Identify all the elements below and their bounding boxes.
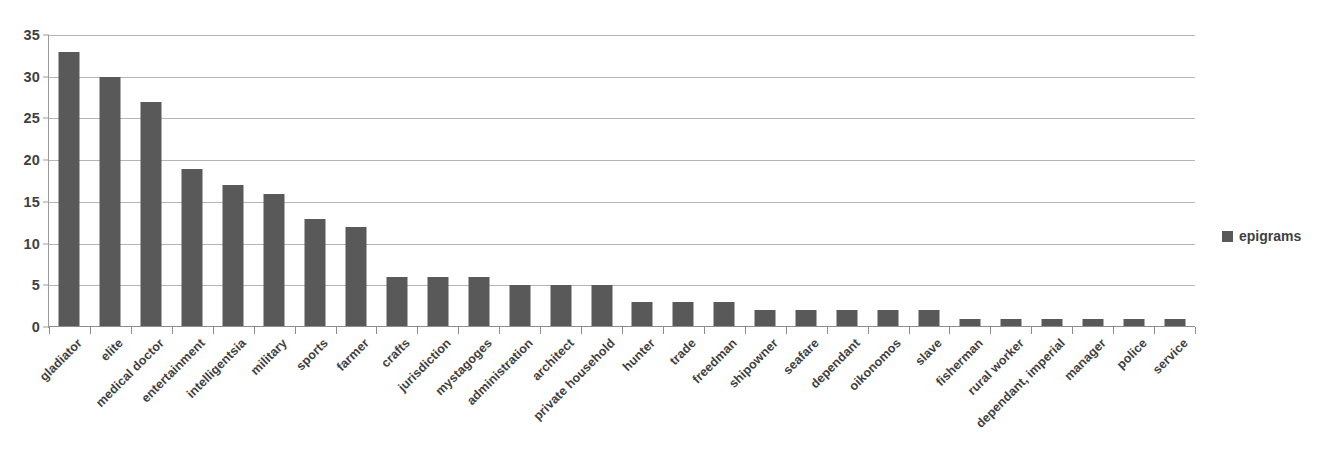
bar-slot <box>172 35 213 327</box>
bar-series-epigrams <box>49 35 1195 327</box>
y-tick-label: 20 <box>2 153 40 168</box>
bar-slot <box>499 35 540 327</box>
x-axis-label: private household <box>530 336 617 423</box>
x-axis-tick <box>336 327 337 334</box>
x-axis-tick <box>417 327 418 334</box>
legend-swatch-epigrams <box>1222 231 1233 242</box>
x-axis-tick <box>949 327 950 334</box>
bar-slot <box>49 35 90 327</box>
bar-slot <box>458 35 499 327</box>
x-axis-labels: gladiatorelitemedical doctorentertainmen… <box>49 336 1195 452</box>
bar[interactable] <box>673 302 694 327</box>
x-axis-tick <box>90 327 91 334</box>
bar[interactable] <box>509 285 530 327</box>
bar-slot <box>990 35 1031 327</box>
x-axis-label: slave <box>912 336 944 368</box>
bar-chart: 05101520253035 gladiatorelitemedical doc… <box>0 0 1322 452</box>
x-axis-tick <box>458 327 459 334</box>
bar[interactable] <box>427 277 448 327</box>
x-axis-label: gladiator <box>37 336 85 384</box>
x-axis-ticks <box>49 327 1195 335</box>
bar[interactable] <box>345 227 366 327</box>
x-axis-tick <box>1113 327 1114 334</box>
x-axis-tick <box>827 327 828 334</box>
x-axis-tick <box>663 327 664 334</box>
bar[interactable] <box>182 169 203 328</box>
bar-slot <box>376 35 417 327</box>
x-axis-label: hunter <box>621 336 659 374</box>
bar-slot <box>868 35 909 327</box>
legend-label-epigrams: epigrams <box>1239 228 1301 244</box>
x-axis-tick <box>295 327 296 334</box>
chart-legend: epigrams <box>1222 228 1301 244</box>
bar-slot <box>540 35 581 327</box>
x-axis-tick <box>131 327 132 334</box>
bar[interactable] <box>223 185 244 327</box>
bar-slot <box>581 35 622 327</box>
x-axis-label: trade <box>667 336 699 368</box>
bar-slot <box>622 35 663 327</box>
bar-slot <box>1154 35 1195 327</box>
x-axis-tick <box>909 327 910 334</box>
y-tick-label: 25 <box>2 111 40 126</box>
x-axis-label: elite <box>98 336 126 364</box>
y-axis-labels: 05101520253035 <box>0 0 40 340</box>
x-axis-tick <box>622 327 623 334</box>
x-axis-tick <box>1031 327 1032 334</box>
bar-slot <box>254 35 295 327</box>
bar-slot <box>1031 35 1072 327</box>
bar[interactable] <box>264 194 285 327</box>
x-axis-label: service <box>1150 336 1191 377</box>
bar[interactable] <box>59 52 80 327</box>
bar-slot <box>1072 35 1113 327</box>
x-axis-label: military <box>248 336 290 378</box>
x-axis-label: police <box>1114 336 1150 372</box>
bar-slot <box>90 35 131 327</box>
x-axis-tick <box>254 327 255 334</box>
bar-slot <box>786 35 827 327</box>
bar-slot <box>131 35 172 327</box>
bar[interactable] <box>468 277 489 327</box>
bar-slot <box>745 35 786 327</box>
bar[interactable] <box>305 219 326 327</box>
bar[interactable] <box>632 302 653 327</box>
bar[interactable] <box>386 277 407 327</box>
bar[interactable] <box>591 285 612 327</box>
bar[interactable] <box>878 310 899 327</box>
x-axis-tick <box>376 327 377 334</box>
bar[interactable] <box>141 102 162 327</box>
y-tick-label: 10 <box>2 236 40 251</box>
plot-area <box>49 35 1195 327</box>
bar-slot <box>417 35 458 327</box>
x-axis-tick <box>1072 327 1073 334</box>
bar-slot <box>949 35 990 327</box>
bar[interactable] <box>796 310 817 327</box>
bar-slot <box>1113 35 1154 327</box>
bar[interactable] <box>837 310 858 327</box>
bar-slot <box>213 35 254 327</box>
bar[interactable] <box>918 310 939 327</box>
x-axis-tick <box>49 327 50 334</box>
x-axis-label: manager <box>1061 336 1108 383</box>
y-tick-label: 5 <box>2 278 40 293</box>
x-axis-tick <box>213 327 214 334</box>
bar[interactable] <box>100 77 121 327</box>
x-axis-tick <box>499 327 500 334</box>
y-tick-label: 0 <box>2 320 40 335</box>
bar-slot <box>295 35 336 327</box>
bar-slot <box>663 35 704 327</box>
x-axis-tick <box>1195 327 1196 334</box>
x-axis-tick <box>1154 327 1155 334</box>
bar-slot <box>336 35 377 327</box>
bar[interactable] <box>755 310 776 327</box>
x-axis-tick <box>704 327 705 334</box>
bar[interactable] <box>714 302 735 327</box>
x-axis-tick <box>581 327 582 334</box>
bar-slot <box>909 35 950 327</box>
x-axis-tick <box>172 327 173 334</box>
x-axis-tick <box>868 327 869 334</box>
bar[interactable] <box>550 285 571 327</box>
x-axis-label: crafts <box>378 336 412 370</box>
bar-slot <box>704 35 745 327</box>
x-axis-tick <box>745 327 746 334</box>
